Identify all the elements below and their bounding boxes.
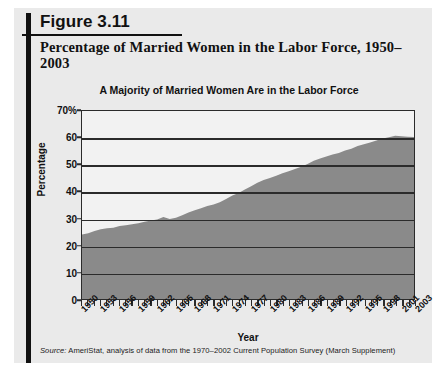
source-text: AmeriStat, analysis of data from the 197…: [67, 346, 396, 355]
y-axis-tick-label: 20: [43, 240, 77, 251]
y-axis-tick-label: 30: [43, 213, 77, 224]
gridline: [82, 165, 414, 167]
gridline: [82, 220, 414, 222]
figure-title: Percentage of Married Women in the Labor…: [40, 39, 420, 71]
y-axis-tick-label: 0: [43, 295, 77, 306]
gridline: [82, 192, 414, 194]
y-axis-tick-label: 70%: [43, 105, 77, 116]
y-axis-tick-label: 60: [43, 132, 77, 143]
y-axis-tick-label: 40: [43, 186, 77, 197]
source-note: Source: AmeriStat, analysis of data from…: [40, 346, 425, 355]
figure-number: Figure 3.11: [40, 12, 420, 32]
plot-inner: [82, 111, 414, 299]
y-axis-tick-label: 10: [43, 267, 77, 278]
plot-frame: [81, 110, 415, 300]
chart-title: A Majority of Married Women Are in the L…: [40, 84, 418, 96]
source-label: Source:: [40, 346, 67, 355]
x-axis-title: Year: [81, 332, 415, 343]
figure-header: Figure 3.11 Percentage of Married Women …: [40, 12, 420, 71]
gridline: [82, 274, 414, 276]
gridline: [82, 247, 414, 249]
chart-area: Percentage 70%6050403020100 195019531956…: [14, 104, 432, 342]
gridline: [82, 138, 414, 140]
figure-panel: Figure 3.11 Percentage of Married Women …: [14, 8, 432, 363]
y-axis-tick-label: 50: [43, 159, 77, 170]
y-axis-labels: 70%6050403020100: [40, 110, 77, 300]
x-axis-labels: 1950195319561959196219651968197119741977…: [81, 307, 415, 335]
figure-header-divider: [22, 34, 182, 36]
